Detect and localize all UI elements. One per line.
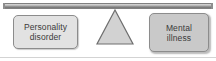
balance-diagram: Personality disorder Mental illness [0, 0, 216, 61]
label-box-mental-illness[interactable]: Mental illness [149, 13, 209, 52]
balance-beam-left-cap [3, 3, 5, 9]
label-box-personality-disorder[interactable]: Personality disorder [13, 15, 78, 49]
ground-line [0, 57, 216, 58]
label-text-personality-disorder: Personality disorder [24, 22, 67, 42]
fulcrum-triangle [96, 9, 134, 45]
label-text-mental-illness: Mental illness [166, 23, 192, 43]
balance-beam-right-cap [211, 3, 213, 9]
